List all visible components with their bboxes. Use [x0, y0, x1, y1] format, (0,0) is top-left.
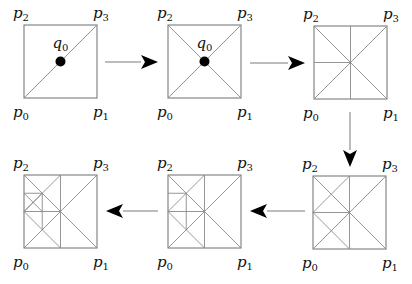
corner-label-p2: p2 — [157, 6, 173, 23]
arrow-3-to-4 — [343, 112, 357, 167]
corner-label-p3: p3 — [383, 7, 399, 24]
q0-point — [56, 57, 66, 67]
panel-step-4 — [313, 176, 386, 249]
corner-label-p2: p2 — [13, 156, 29, 173]
q0-label: q0 — [197, 36, 213, 53]
corner-label-p0: p0 — [157, 105, 173, 122]
arrow-head-icon — [343, 150, 357, 167]
corner-label-p2: p2 — [302, 157, 318, 174]
corner-label-p2: p2 — [13, 6, 29, 23]
corner-label-p3: p3 — [237, 6, 253, 23]
corner-label-p1: p1 — [382, 256, 398, 273]
corner-label-p1: p1 — [383, 106, 399, 123]
corner-label-p0: p0 — [13, 255, 29, 272]
corner-label-p3: p3 — [382, 157, 398, 174]
corner-label-p1: p1 — [93, 105, 109, 122]
corner-label-p1: p1 — [237, 255, 253, 272]
arrow-head-icon — [106, 204, 123, 218]
corner-label-p0: p0 — [157, 255, 173, 272]
panel-step-6 — [24, 175, 97, 248]
arrow-head-icon — [288, 56, 305, 70]
corner-label-p0: p0 — [302, 256, 318, 273]
corner-label-p3: p3 — [93, 6, 109, 23]
arrow-head-icon — [250, 204, 267, 218]
arrow-1-to-2 — [105, 55, 158, 69]
corner-label-p2: p2 — [157, 156, 173, 173]
q0-label: q0 — [53, 36, 69, 53]
corner-label-p1: p1 — [93, 255, 109, 272]
arrow-4-to-5 — [250, 204, 305, 218]
arrow-2-to-3 — [250, 56, 305, 70]
corner-label-p2: p2 — [303, 7, 319, 24]
panel-step-3 — [314, 26, 387, 99]
corner-label-p0: p0 — [303, 106, 319, 123]
q0-point — [200, 57, 210, 67]
arrow-5-to-6 — [106, 204, 158, 218]
corner-label-p1: p1 — [237, 105, 253, 122]
corner-label-p3: p3 — [93, 156, 109, 173]
panel-step-5 — [168, 175, 241, 248]
corner-label-p3: p3 — [237, 156, 253, 173]
corner-label-p0: p0 — [13, 105, 29, 122]
arrow-head-icon — [141, 55, 158, 69]
